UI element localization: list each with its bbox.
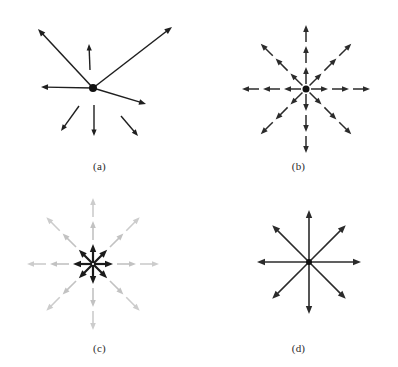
arrow-arrow-up-short-shaft: [89, 48, 90, 70]
ray-6-seg-2-head: [303, 146, 309, 153]
ring-2-ray-2-head: [90, 198, 96, 205]
ray-7-shaft: [309, 262, 342, 295]
center-dot: [303, 86, 310, 93]
arrow-arrow-left-medium-head: [41, 84, 48, 90]
ray-0-seg-0-head: [321, 86, 328, 92]
arrow-arrow-left-medium-shaft: [46, 87, 93, 88]
ring-1-ray-2-head: [90, 221, 96, 228]
panel-c-label: (c): [0, 342, 199, 354]
ray-2-seg-2-head: [303, 25, 309, 32]
ring-0-ray-0-head: [105, 261, 113, 267]
ring-2-ray-6-head: [90, 323, 96, 330]
arrow-arrow-down-left-short-shaft: [63, 106, 79, 128]
ray-0-seg-1-head: [342, 86, 349, 92]
arrow-arrow-down-right-short-shaft: [121, 116, 135, 133]
ray-4-seg-0-head: [284, 86, 291, 92]
panel-b-canvas: [199, 0, 398, 184]
panel-b: (b): [199, 0, 398, 184]
ray-1-shaft: [309, 229, 342, 262]
arrow-arrow-up-short-head: [87, 44, 92, 51]
ring-0-ray-2-head: [90, 244, 96, 252]
ray-6-seg-1-head: [303, 125, 309, 132]
ring-0-ray-4-head: [73, 261, 81, 267]
panel-b-label: (b): [199, 160, 398, 172]
ray-0-head: [353, 259, 361, 265]
ray-4-seg-2-head: [242, 86, 249, 92]
panel-d: (d): [199, 184, 398, 367]
figure-grid: (a) (b) (c) (d): [0, 0, 398, 367]
ray-2-head: [306, 210, 312, 218]
ring-2-ray-4-head: [27, 261, 34, 267]
ray-5-shaft: [276, 262, 309, 295]
ring-1-ray-6-head: [90, 300, 96, 307]
panel-a: (a): [0, 0, 199, 184]
ray-3-shaft: [276, 229, 309, 262]
arrow-arrow-down-left-short-head: [61, 124, 67, 131]
panel-d-label: (d): [199, 342, 398, 354]
ray-0-seg-2-head: [363, 86, 370, 92]
ray-6-head: [306, 306, 312, 314]
ray-4-seg-1-head: [263, 86, 270, 92]
ray-6-seg-0-head: [303, 104, 309, 111]
ring-1-ray-0-head: [129, 261, 136, 267]
arrow-arrow-up-left-long-shaft: [41, 33, 93, 88]
arrow-arrow-down-short-head: [91, 130, 96, 137]
ring-2-ray-0-head: [152, 261, 159, 267]
ring-1-ray-4-head: [50, 261, 57, 267]
arrow-arrow-down-right-medium-head: [138, 99, 146, 104]
arrow-arrow-up-right-long-shaft: [93, 30, 168, 88]
panel-a-label: (a): [0, 160, 199, 172]
panel-c: (c): [0, 184, 199, 367]
panel-c-canvas: [0, 184, 199, 367]
panel-a-canvas: [0, 0, 199, 184]
arrow-arrow-down-right-medium-shaft: [93, 88, 142, 103]
ray-4-head: [257, 259, 265, 265]
center-dot: [306, 259, 312, 265]
panel-d-canvas: [199, 184, 398, 367]
ray-2-seg-0-head: [303, 67, 309, 74]
ray-2-seg-1-head: [303, 46, 309, 53]
center-dot: [89, 84, 97, 92]
ring-0-ray-6-head: [90, 276, 96, 284]
